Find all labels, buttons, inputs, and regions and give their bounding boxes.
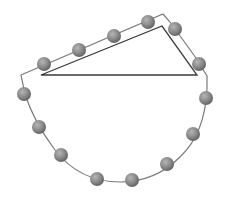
bead <box>168 22 182 36</box>
bead <box>125 173 139 187</box>
bead <box>199 91 213 105</box>
bead <box>17 87 31 101</box>
bead-string-triangle-diagram <box>0 0 232 202</box>
bead <box>141 15 155 29</box>
bead <box>72 43 86 57</box>
bead <box>192 57 206 71</box>
bead <box>160 157 174 171</box>
bead <box>107 29 121 43</box>
bead <box>186 127 200 141</box>
bead <box>54 148 68 162</box>
bead <box>90 172 104 186</box>
bead <box>37 57 51 71</box>
bead <box>32 120 46 134</box>
